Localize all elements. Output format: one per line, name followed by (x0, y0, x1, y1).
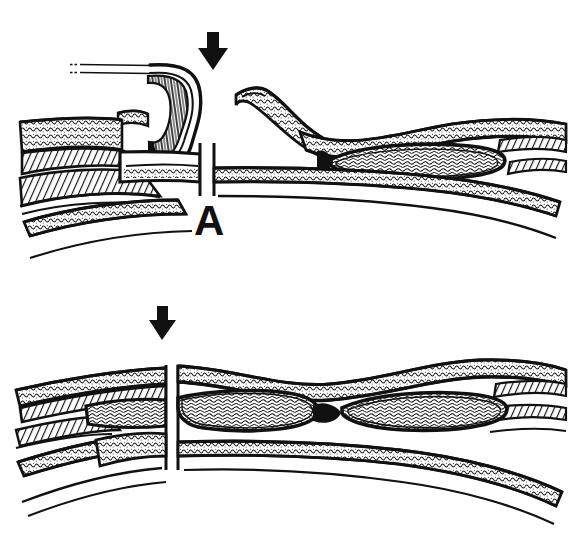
lens-shaped-body-left-b (178, 391, 318, 431)
panel-label-a: A (194, 200, 224, 242)
lens-shaped-body-right-b (342, 393, 507, 431)
panel-a-illustration (0, 0, 577, 280)
central-band-left (120, 152, 200, 182)
panel-b: B (0, 280, 577, 537)
panel-b-illustration (0, 280, 577, 537)
vertical-cleft-gap-b (166, 362, 178, 472)
vertical-cleft-gap (200, 140, 214, 200)
panel-a: A (0, 0, 577, 280)
lens-fragment-left-b (86, 399, 166, 427)
upper-tissue-layer-left (20, 118, 122, 152)
figure-root: A (0, 0, 577, 537)
